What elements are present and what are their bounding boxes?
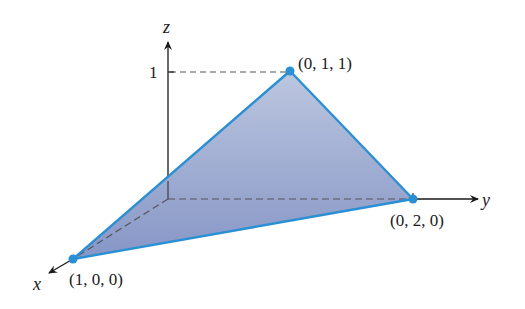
point-a-label: (1, 0, 0) bbox=[69, 270, 123, 289]
point-a bbox=[69, 255, 78, 264]
point-b bbox=[409, 195, 418, 204]
point-b-label: (0, 2, 0) bbox=[390, 211, 444, 230]
point-c-label: (0, 1, 1) bbox=[298, 54, 352, 73]
y-axis-label: y bbox=[480, 190, 490, 210]
point-c bbox=[286, 67, 295, 76]
triangle-plane bbox=[73, 71, 413, 259]
triangle-diagram: z y x 1 (0, 1, 1) (0, 2, 0) (1, 0, 0) bbox=[0, 0, 525, 309]
x-axis-label: x bbox=[32, 274, 41, 294]
z-axis-label: z bbox=[162, 17, 170, 37]
z-tick-label: 1 bbox=[149, 63, 158, 82]
